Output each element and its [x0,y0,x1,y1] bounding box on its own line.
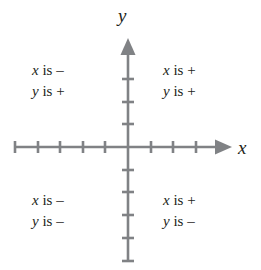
variable-symbol: x [163,62,170,78]
quadrant-1-line-1: x is + [163,60,196,81]
verb-text: is [42,213,52,229]
quadrant-2-annotation: x is – y is + [32,60,65,102]
x-axis-arrowhead [215,140,232,155]
variable-symbol: y [32,83,39,99]
verb-text: is [42,62,52,78]
variable-symbol: x [32,192,39,208]
y-axis-label: y [118,6,126,25]
variable-symbol: x [163,192,170,208]
quadrant-4-line-2: y is – [163,211,196,232]
sign-symbol: + [187,62,195,78]
verb-text: is [173,192,183,208]
x-axis-group [14,140,232,155]
variable-symbol: y [163,213,170,229]
y-axis-arrowhead [121,38,136,55]
quadrant-2-line-2: y is + [32,81,65,102]
quadrant-4-line-1: x is + [163,190,196,211]
quadrant-2-line-1: x is – [32,60,65,81]
sign-symbol: – [56,192,64,208]
verb-text: is [42,192,52,208]
y-axis-group [121,38,136,262]
sign-symbol: + [187,83,195,99]
quadrant-1-line-2: y is + [163,81,196,102]
verb-text: is [173,83,183,99]
variable-symbol: y [32,213,39,229]
x-axis-label: x [238,138,246,157]
sign-symbol: – [56,213,64,229]
quadrant-4-annotation: x is + y is – [163,190,196,232]
variable-symbol: y [163,83,170,99]
quadrant-3-line-2: y is – [32,211,64,232]
quadrant-3-annotation: x is – y is – [32,190,64,232]
quadrant-3-line-1: x is – [32,190,64,211]
sign-symbol: + [187,192,195,208]
verb-text: is [42,83,52,99]
verb-text: is [173,213,183,229]
coordinate-plane-figure: y x x is – y is + x is + y is + x is – [0,0,261,270]
sign-symbol: + [56,83,64,99]
verb-text: is [173,62,183,78]
sign-symbol: – [187,213,195,229]
variable-symbol: x [32,62,39,78]
quadrant-1-annotation: x is + y is + [163,60,196,102]
sign-symbol: – [56,62,64,78]
